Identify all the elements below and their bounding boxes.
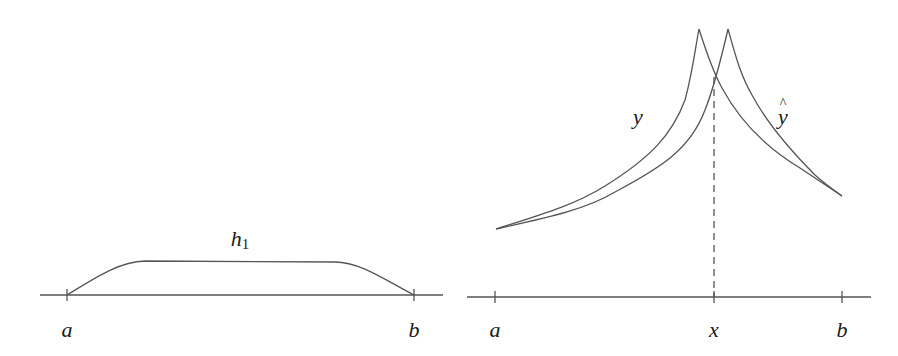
h1-label: h1: [231, 228, 250, 252]
left-axis-label-a: a: [62, 319, 73, 341]
right-axis-label-b: b: [837, 319, 848, 341]
y-curve: [496, 29, 842, 229]
h1-label-text: h: [231, 226, 242, 251]
right-axis-label-x: x: [709, 319, 719, 341]
left-axis-label-b: b: [409, 319, 420, 341]
y-curve-label: y: [633, 106, 643, 128]
y-hat-curve: [496, 29, 842, 229]
y-hat-symbol: y: [778, 106, 788, 128]
h1-label-subscript: 1: [242, 236, 250, 252]
h1-curve: [67, 261, 414, 295]
right-axis-label-a: a: [490, 319, 501, 341]
y-hat-curve-label: y: [778, 106, 788, 128]
figure-canvas: [0, 0, 898, 356]
